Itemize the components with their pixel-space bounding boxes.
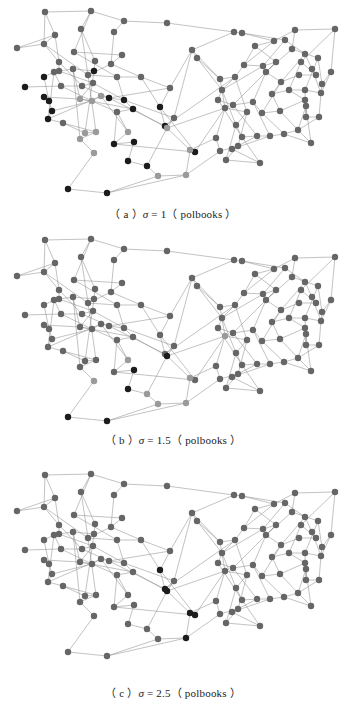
graph-edge [17, 272, 44, 276]
graph-edge [192, 278, 220, 307]
graph-node [14, 273, 20, 279]
graph-node [89, 561, 95, 567]
graph-node [217, 611, 223, 617]
graph-edge [280, 563, 305, 574]
graph-node [222, 568, 228, 574]
graph-node [217, 304, 223, 310]
graph-node [138, 537, 144, 543]
graph-edge [68, 616, 94, 652]
graph-node [183, 400, 189, 406]
graph-edge [226, 125, 236, 160]
graph-node [119, 52, 125, 58]
graph-node [239, 134, 245, 140]
graph-edge [174, 50, 192, 118]
graph-node [213, 135, 219, 141]
graph-node [289, 274, 295, 280]
graph-node [22, 312, 28, 318]
graph-edge [117, 575, 128, 595]
graph-node [125, 129, 131, 135]
graph-node [41, 269, 47, 275]
graph-edge [242, 600, 260, 626]
caption-c: （ c ）σ = 2.5（ polbooks ） [0, 684, 346, 700]
graph-node [233, 122, 239, 128]
graph-edge [167, 486, 234, 495]
graph-node [45, 116, 51, 122]
graph-node [111, 604, 117, 610]
graph-edge [295, 492, 335, 493]
graph-node [222, 333, 228, 339]
graph-node [313, 72, 319, 78]
graph-node [303, 114, 309, 120]
caption-b-suffix: （ polbooks ） [171, 434, 241, 446]
caption-a: （ a ）σ = 1（ polbooks ） [0, 205, 346, 221]
graph-edge [331, 492, 335, 535]
graph-edge [59, 290, 82, 314]
graph-node [89, 326, 95, 332]
graph-edge [111, 495, 114, 527]
graph-edge [59, 62, 82, 86]
graph-node [298, 287, 304, 293]
graph-node [41, 504, 47, 510]
graph-node [302, 550, 308, 556]
graph-edge [262, 576, 284, 597]
graph-node [273, 522, 279, 528]
graph-edge [25, 86, 61, 87]
graph-node [269, 319, 275, 325]
nodes [14, 471, 338, 659]
nodes [14, 236, 338, 424]
caption-a-prefix: （ a ） [109, 208, 142, 220]
graph-node [318, 318, 324, 324]
graph-node [233, 585, 239, 591]
caption-b-value: = 1.5 [144, 434, 171, 446]
graph-edge [81, 29, 95, 61]
caption-c-value: = 2.5 [144, 687, 171, 699]
graph-node [14, 508, 20, 514]
graph-edge [92, 564, 117, 575]
graph-node [332, 26, 338, 32]
graph-node [108, 289, 114, 295]
graph-node [273, 287, 279, 293]
graph-node [138, 74, 144, 80]
graph-node [269, 91, 275, 97]
graph-node [93, 129, 99, 135]
graph-node [130, 569, 136, 575]
graph-edge [44, 12, 45, 44]
graph-node [296, 72, 302, 78]
graph-node [77, 364, 83, 370]
graph-edge [92, 329, 117, 340]
graph-node [187, 147, 193, 153]
graph-node [78, 254, 84, 260]
graph-node [91, 296, 97, 302]
graph-node [233, 350, 239, 356]
graph-edge [45, 475, 55, 498]
graph-edge [244, 509, 255, 528]
graph-edge [111, 260, 114, 292]
graph-node [125, 592, 131, 598]
graph-node [315, 518, 321, 524]
caption-c-prefix: （ c ） [105, 687, 138, 699]
graph-node [41, 302, 47, 308]
graph-edge [186, 150, 190, 175]
graph-edge [244, 274, 255, 293]
graph-edge [262, 113, 284, 134]
graph-edge [226, 588, 236, 623]
graph-edge [17, 507, 44, 511]
graph-node [302, 51, 308, 57]
graph-node [104, 418, 110, 424]
graph-node [111, 257, 117, 263]
graph-node [241, 525, 247, 531]
graph-node [316, 577, 322, 583]
graph-edge [216, 108, 225, 138]
graph-node [229, 374, 235, 380]
graph-node [189, 510, 195, 516]
graph-edge [133, 109, 167, 128]
graph-node [229, 609, 235, 615]
graph-node [271, 501, 277, 507]
graph-node [332, 489, 338, 495]
graph-node [302, 87, 308, 93]
graph-node [183, 635, 189, 641]
graph-edge [192, 513, 220, 542]
graph-node [229, 146, 235, 152]
graph-node [215, 560, 221, 566]
graph-node [130, 334, 136, 340]
